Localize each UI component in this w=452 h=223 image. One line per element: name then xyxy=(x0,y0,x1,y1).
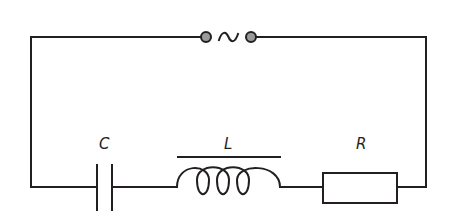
inductor xyxy=(177,157,280,194)
capacitor-label: C xyxy=(99,135,110,153)
ac-wave-icon xyxy=(219,33,238,41)
source-terminal-right xyxy=(246,32,256,42)
inductor-label: L xyxy=(224,135,232,153)
wire-top-right xyxy=(256,37,426,187)
resistor-label: R xyxy=(356,135,366,153)
resistor xyxy=(323,173,397,203)
source-terminal-left xyxy=(201,32,211,42)
circuit-diagram: C L R xyxy=(0,0,452,223)
capacitor xyxy=(97,165,112,210)
wire-top-left xyxy=(31,37,201,187)
